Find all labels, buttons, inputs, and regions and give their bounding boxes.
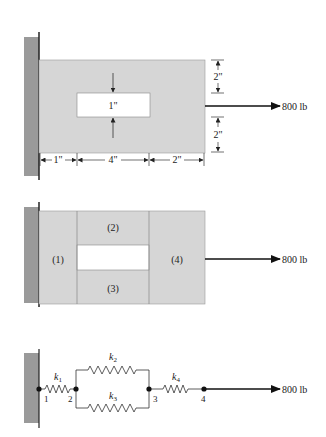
spring-label-k2: k2 [109, 351, 117, 364]
diagram-spring-model: 800 lb 1 2 3 4 k1 k2 k3 k4 [24, 349, 307, 428]
dim-1in: 1" [53, 154, 62, 165]
load-label: 800 lb [282, 254, 307, 265]
node-1 [36, 386, 41, 391]
load-label: 800 lb [282, 101, 307, 112]
spring-k2 [88, 366, 136, 374]
load-label: 800 lb [282, 384, 307, 395]
hole-height-label: 1" [108, 100, 117, 111]
hole [77, 245, 149, 270]
diagram-plate-regions: (1) (2) (3) (4) 800 lb [24, 202, 307, 307]
node-label-3: 3 [153, 394, 158, 404]
node-label-2: 2 [68, 394, 73, 404]
region-2: (2) [107, 222, 119, 234]
spring-k3 [88, 404, 136, 412]
region-4: (4) [171, 254, 183, 266]
node-label-1: 1 [44, 394, 49, 404]
branch-lower-wire [76, 389, 88, 408]
diagram-plate-with-hole: 1" 800 lb 2" 2" [24, 32, 307, 180]
node-2 [73, 386, 78, 391]
spring-label-k3: k3 [109, 390, 117, 403]
wall-support [24, 37, 39, 176]
region-1: (1) [52, 254, 64, 266]
node-label-4: 4 [201, 394, 206, 404]
region-3: (3) [107, 283, 119, 295]
dim-4in: 4" [108, 154, 117, 165]
figure: 1" 800 lb 2" 2" [0, 0, 326, 437]
dim-bottom-2in: 2" [213, 129, 222, 140]
spring-label-k1: k1 [54, 371, 62, 384]
wall-support [24, 207, 39, 303]
branch-upper-wire-right [136, 370, 149, 389]
node-4 [201, 386, 206, 391]
node-3 [146, 386, 151, 391]
dim-top-2in: 2" [213, 71, 222, 82]
branch-lower-wire-right [136, 389, 149, 408]
spring-k4 [149, 385, 204, 393]
branch-upper-wire [76, 370, 88, 389]
dim-2in: 2" [172, 154, 181, 165]
spring-k1 [39, 385, 76, 393]
spring-label-k4: k4 [172, 371, 180, 384]
